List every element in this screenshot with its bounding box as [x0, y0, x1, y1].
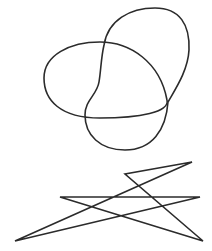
ellipse-loop [44, 42, 167, 118]
line-drawing [0, 0, 212, 251]
bean-loop [85, 8, 189, 150]
zigzag-polyline [15, 162, 203, 241]
